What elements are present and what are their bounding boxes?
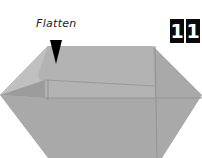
- origami-diagram: Flatten 1 1: [0, 0, 202, 158]
- step-digit: 1: [170, 19, 184, 43]
- flatten-label: Flatten: [36, 17, 77, 30]
- step-number: 1 1: [170, 19, 200, 43]
- step-digit: 1: [186, 19, 200, 43]
